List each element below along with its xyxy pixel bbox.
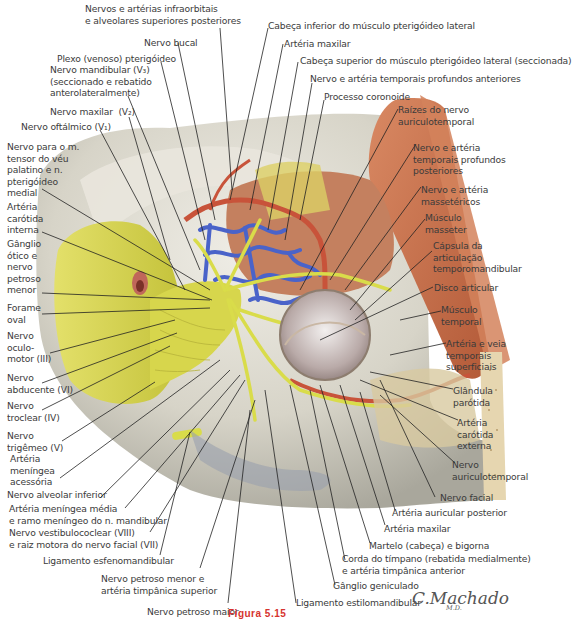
label-malleus-incus: Martelo (cabeça) e bigorna bbox=[369, 540, 489, 552]
label-accessory-meningeal-artery: Artéria meníngea acessória bbox=[10, 453, 55, 488]
label-vestibulocochlear-nerve: Nervo vestibulococlear (VIII) e raiz mot… bbox=[9, 527, 158, 550]
label-chorda-tympani: Corda do tímpano (rebatida medialmente) … bbox=[342, 553, 531, 576]
label-tmj-capsule: Cápsula da articulação temporomandibular bbox=[433, 240, 522, 275]
label-geniculate-ganglion: Gânglio geniculado bbox=[333, 580, 419, 592]
label-maxillary-artery-bottom: Artéria maxilar bbox=[384, 523, 450, 535]
label-abducens-nerve: Nervo abducente (VI) bbox=[7, 372, 73, 395]
label-auriculotemporal-roots: Raízes do nervo auriculotemporal bbox=[398, 104, 474, 127]
artist-signature: C.Machado M.D. bbox=[412, 588, 509, 612]
label-otic-ganglion: Gânglio ótico e nervo petroso menor bbox=[7, 238, 41, 296]
label-posterior-deep-temporal: Nervo e artéria temporais profundos post… bbox=[413, 142, 506, 177]
label-foramen-ovale: Forame oval bbox=[7, 302, 41, 325]
label-superficial-temporal-vessels: Artéria e veia temporais superficiais bbox=[446, 338, 506, 373]
label-coronoid-process: Processo coronoide bbox=[324, 91, 410, 103]
label-trochlear-nerve: Nervo troclear (IV) bbox=[7, 400, 60, 423]
label-facial-nerve: Nervo facial bbox=[440, 492, 493, 504]
label-posterior-auricular-artery: Artéria auricular posterior bbox=[392, 507, 507, 519]
label-mandibular-nerve: Nervo mandibular (V₃) (seccionado e reba… bbox=[50, 64, 152, 99]
label-tensor-veli-palatini-nerve: Nervo para o m. tensor do véu palatino e… bbox=[7, 141, 79, 199]
label-lesser-petrosal-nerve: Nervo petroso menor e artéria timpânica … bbox=[101, 573, 217, 596]
label-anterior-deep-temporal: Nervo e artéria temporais profundos ante… bbox=[310, 73, 521, 85]
label-masseter-muscle: Músculo masseter bbox=[425, 212, 467, 235]
label-maxillary-nerve: Nervo maxilar (V₂) bbox=[50, 106, 135, 118]
label-internal-carotid: Artéria carótida interna bbox=[7, 201, 43, 236]
label-sphenomandibular-ligament: Ligamento esfenomandibular bbox=[43, 555, 174, 567]
label-pterygoid-plexus: Plexo (venoso) pterigóideo bbox=[57, 53, 176, 65]
label-temporal-muscle: Músculo temporal bbox=[441, 304, 481, 327]
label-oculomotor-nerve: Nervo oculo- motor (III) bbox=[7, 330, 51, 365]
label-stylomandibular-ligament: Ligamento estilomandibular bbox=[296, 597, 421, 609]
figure-label: Figura 5.15 bbox=[228, 608, 286, 619]
label-infraorbital-nerves-arteries: Nervos e artérias infraorbitais e alveol… bbox=[85, 3, 241, 26]
label-buccal-nerve: Nervo bucal bbox=[144, 37, 198, 49]
label-parotid-gland: Glândula parótida bbox=[453, 385, 493, 408]
label-greater-petrosal-nerve: Nervo petroso maior bbox=[147, 606, 239, 618]
label-middle-meningeal-artery: Artéria meníngea média e ramo meníngeo d… bbox=[9, 503, 167, 526]
label-masseteric: Nervo e artéria massetéricos bbox=[421, 184, 488, 207]
label-auriculotemporal-nerve: Nervo auriculotemporal bbox=[452, 459, 528, 482]
label-ophthalmic-nerve: Nervo oftálmico (V₁) bbox=[21, 121, 111, 133]
label-lateral-pterygoid-inferior-head: Cabeça inferior do músculo pterigóideo l… bbox=[268, 20, 475, 32]
label-trigeminal-nerve: Nervo trigêmeo (V) bbox=[7, 430, 63, 453]
label-external-carotid: Artéria carótida externa bbox=[457, 417, 493, 452]
label-lateral-pterygoid-superior-head: Cabeça superior do músculo pterigóideo l… bbox=[300, 55, 572, 67]
label-maxillary-artery-top: Artéria maxilar bbox=[284, 38, 350, 50]
label-inferior-alveolar-nerve: Nervo alveolar inferior bbox=[7, 489, 107, 501]
label-articular-disc: Disco articular bbox=[434, 282, 498, 294]
